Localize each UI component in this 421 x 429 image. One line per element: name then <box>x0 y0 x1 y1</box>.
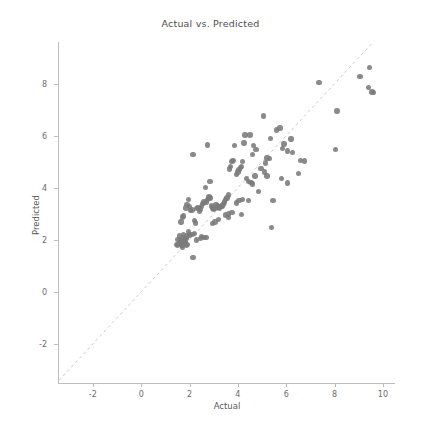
y-tick-label: -2 <box>39 339 47 348</box>
scatter-point <box>229 210 234 215</box>
scatter-point <box>209 203 214 208</box>
x-tick-mark: -2 <box>93 383 94 387</box>
x-tick-label: 2 <box>187 390 192 399</box>
scatter-chart-figure: Actual vs. Predicted -202468 -20246810 P… <box>0 0 421 429</box>
x-tick-mark: 0 <box>141 383 142 387</box>
y-tick-mark: 0 <box>54 292 58 293</box>
scatter-point <box>227 166 232 171</box>
scatter-point <box>205 142 210 147</box>
x-tick-mark: 10 <box>383 383 384 387</box>
scatter-point <box>177 233 182 238</box>
scatter-point <box>242 132 247 137</box>
scatter-point <box>274 127 279 132</box>
x-tick-mark: 8 <box>335 383 336 387</box>
x-tick-label: 6 <box>284 390 289 399</box>
scatter-point <box>285 180 290 185</box>
x-tick-label: 4 <box>235 390 240 399</box>
scatter-point <box>316 80 321 85</box>
x-tick-label: 10 <box>378 390 388 399</box>
y-tick-mark: 4 <box>54 188 58 189</box>
scatter-point <box>296 171 301 176</box>
chart-title: Actual vs. Predicted <box>0 18 421 29</box>
scatter-point <box>234 200 239 205</box>
scatter-point <box>288 136 293 141</box>
x-tick-label: 8 <box>332 390 337 399</box>
scatter-point <box>258 166 263 171</box>
scatter-point <box>241 140 246 145</box>
x-axis-spine: -20246810 <box>58 383 395 384</box>
y-tick-label: 2 <box>42 235 47 244</box>
y-tick-mark: -2 <box>54 344 58 345</box>
scatter-point <box>252 173 257 178</box>
scatter-point <box>334 108 339 113</box>
y-tick-label: 4 <box>42 183 47 192</box>
scatter-point <box>207 179 212 184</box>
scatter-point <box>261 113 266 118</box>
y-tick-mark: 6 <box>54 136 58 137</box>
scatter-point <box>247 132 252 137</box>
scatter-point <box>190 152 195 157</box>
y-tick-label: 6 <box>42 131 47 140</box>
x-tick-mark: 4 <box>238 383 239 387</box>
y-axis-label: Predicted <box>31 195 41 235</box>
scatter-point <box>357 74 362 79</box>
scatter-point <box>192 218 197 223</box>
x-tick-label: 0 <box>139 390 144 399</box>
x-axis-label: Actual <box>59 401 395 411</box>
x-tick-mark: 2 <box>190 383 191 387</box>
x-tick-label: -2 <box>89 390 97 399</box>
y-tick-label: 0 <box>42 287 47 296</box>
scatter-point <box>190 255 195 260</box>
y-tick-mark: 2 <box>54 240 58 241</box>
x-tick-mark: 6 <box>286 383 287 387</box>
scatter-point <box>250 181 255 186</box>
scatter-point <box>285 148 290 153</box>
y-tick-mark: 8 <box>54 84 58 85</box>
y-tick-label: 8 <box>42 79 47 88</box>
scatter-point <box>183 205 188 210</box>
scatter-point <box>371 90 376 95</box>
plot-area <box>59 42 395 383</box>
scatter-point <box>178 219 183 224</box>
